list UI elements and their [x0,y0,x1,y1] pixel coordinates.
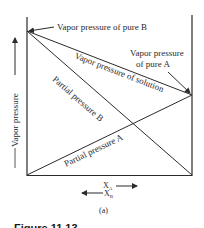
partial-a-label: Partial pressure A [63,132,125,169]
partial-b-label: Partial pressure B [51,74,106,124]
pure-b-label: Vapor pressure of pure B [57,22,147,32]
figure-sublabel: (a) [99,206,108,215]
figure-caption: Figure 11.13 [14,222,78,228]
raoult-law-diagram: Vapor pressure Vapor pressure of pure B … [0,0,204,228]
y-axis-label: Vapor pressure [10,93,20,147]
partial-a-line [27,95,192,175]
pure-a-label-line2: of pure A [136,59,170,69]
pure-b-pointer-arrow-icon [29,27,54,31]
pure-a-label-line1: Vapor pressure [130,48,184,58]
